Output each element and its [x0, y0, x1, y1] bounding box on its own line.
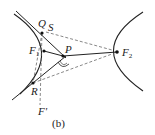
label-r: R — [30, 85, 38, 97]
segment-f1-p — [44, 51, 63, 56]
angle-arc-p-inner — [60, 61, 67, 65]
hyperbola-diagram: Q S F1 P R F' F2 (b) — [0, 0, 155, 135]
label-q: Q — [38, 17, 46, 29]
label-p: P — [64, 43, 72, 55]
point-f1 — [42, 49, 45, 52]
dashed-r-f2 — [33, 54, 112, 83]
label-f1: F1 — [28, 44, 40, 58]
label-fprime: F' — [37, 105, 48, 117]
label-f2: F2 — [121, 46, 133, 60]
figure-caption: (b) — [52, 117, 65, 130]
label-s: S — [48, 21, 54, 33]
point-q — [40, 31, 43, 34]
diagram-canvas: Q S F1 P R F' F2 (b) — [0, 0, 155, 135]
point-f2 — [115, 50, 119, 54]
dashed-s-f2 — [46, 32, 112, 50]
